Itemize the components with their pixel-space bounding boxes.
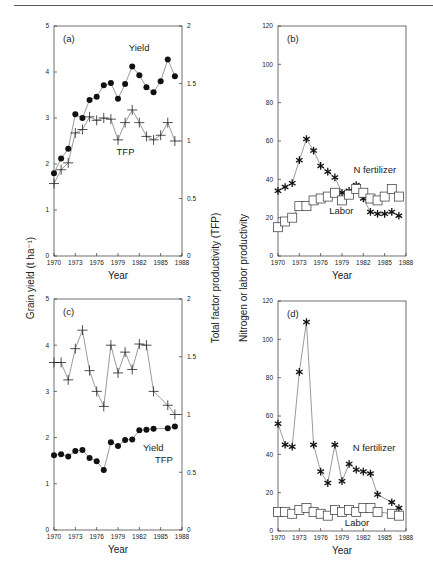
y-right-tick-label: 1.5 (187, 353, 196, 360)
x-tick-label: 1982 (132, 533, 147, 540)
panel-label: (c) (63, 306, 74, 317)
x-tick-label: 1988 (399, 259, 414, 266)
plot-frame (278, 26, 406, 256)
y-tick-label: 4 (45, 68, 49, 75)
plus-marker-icon (113, 135, 123, 145)
y-tick-label: 60 (266, 412, 274, 419)
circle-marker-icon (115, 443, 121, 449)
circle-marker-icon (136, 72, 142, 78)
circle-marker-icon (65, 146, 71, 152)
y-tick-label: 5 (45, 22, 49, 29)
circle-marker-icon (143, 84, 149, 90)
circle-marker-icon (158, 78, 164, 84)
plot-frame (54, 299, 182, 530)
circle-marker-icon (143, 427, 149, 433)
star-marker-icon (310, 441, 317, 449)
circle-marker-icon (165, 425, 171, 431)
x-tick-label: 1973 (68, 259, 83, 266)
circle-marker-icon (58, 155, 64, 161)
plus-marker-icon (127, 105, 137, 115)
star-marker-icon (324, 168, 331, 176)
plus-marker-icon (113, 368, 123, 378)
circle-marker-icon (151, 426, 157, 432)
y-right-tick-label: 0 (187, 252, 191, 259)
x-tick-label: 1976 (89, 533, 104, 540)
y-tick-label: 0 (269, 527, 273, 534)
series-label: N fertilizer (353, 442, 396, 453)
plus-marker-icon (127, 364, 137, 374)
plus-marker-icon (163, 118, 173, 128)
circle-marker-icon (72, 111, 78, 117)
plus-marker-icon (106, 340, 116, 350)
star-marker-icon (317, 468, 324, 476)
y-right-tick-label: 2 (187, 22, 191, 29)
y-tick-label: 3 (45, 388, 49, 395)
plus-marker-icon (99, 401, 109, 411)
x-tick-label: 1976 (89, 259, 104, 266)
panel-label: (b) (287, 33, 299, 44)
square-marker-icon (288, 213, 297, 222)
plus-marker-icon (134, 339, 144, 349)
star-marker-icon (396, 212, 403, 220)
circle-marker-icon (87, 97, 93, 103)
plus-marker-icon (49, 179, 59, 189)
star-marker-icon (332, 441, 339, 449)
y-tick-label: 120 (262, 297, 273, 304)
x-axis-title: Year (332, 270, 353, 281)
circle-marker-icon (108, 439, 114, 445)
circle-marker-icon (51, 170, 57, 176)
y-tick-label: 40 (266, 451, 274, 458)
x-tick-label: 1976 (313, 534, 328, 541)
x-tick-label: 1982 (356, 259, 371, 266)
x-tick-label: 1982 (132, 259, 147, 266)
circle-marker-icon (94, 458, 100, 464)
star-marker-icon (275, 187, 282, 195)
x-tick-label: 1985 (153, 533, 168, 540)
plus-marker-icon (170, 136, 180, 146)
x-tick-label: 1985 (377, 534, 392, 541)
circle-marker-icon (58, 451, 64, 457)
star-marker-icon (324, 479, 331, 487)
series-line-tfp (54, 110, 175, 184)
y-tick-label: 100 (262, 336, 273, 343)
star-marker-icon (339, 477, 346, 485)
plus-marker-icon (120, 118, 130, 128)
x-axis-title: Year (108, 544, 129, 555)
panel-a: 197019731976197919821985198801234500.511… (45, 22, 196, 281)
x-tick-label: 1988 (175, 259, 190, 266)
plot-frame (278, 301, 406, 531)
series-label: TFP (117, 146, 135, 157)
x-tick-label: 1970 (271, 259, 286, 266)
y-tick-label: 3 (45, 114, 49, 121)
square-marker-icon (373, 507, 382, 516)
star-marker-icon (310, 147, 317, 155)
series-label: TFP (155, 454, 173, 465)
x-tick-label: 1985 (153, 259, 168, 266)
y-tick-label: 80 (266, 374, 274, 381)
y-tick-label: 1 (45, 206, 49, 213)
panel-c: 197019731976197919821985198801234500.511… (45, 295, 196, 555)
panel-label: (a) (63, 33, 75, 44)
circle-marker-icon (94, 94, 100, 100)
plus-marker-icon (134, 118, 144, 128)
y-right-tick-label: 1 (187, 137, 191, 144)
x-tick-label: 1979 (335, 534, 350, 541)
y-tick-label: 60 (266, 137, 274, 144)
star-marker-icon (332, 174, 339, 182)
star-marker-icon (296, 368, 303, 376)
plus-marker-icon (92, 386, 102, 396)
x-axis-title: Year (332, 545, 353, 556)
y-tick-label: 20 (266, 214, 274, 221)
y-tick-label: 2 (45, 160, 49, 167)
circle-marker-icon (65, 454, 71, 460)
circle-marker-icon (122, 81, 128, 87)
square-marker-icon (394, 192, 403, 201)
plus-marker-icon (120, 347, 130, 357)
star-marker-icon (303, 135, 310, 143)
y-tick-label: 0 (45, 252, 49, 259)
circle-marker-icon (136, 427, 142, 433)
plus-marker-icon (156, 130, 166, 140)
panel-b: 1970197319761979198219851988020406080100… (262, 22, 413, 281)
star-marker-icon (374, 491, 381, 499)
star-marker-icon (388, 208, 395, 216)
